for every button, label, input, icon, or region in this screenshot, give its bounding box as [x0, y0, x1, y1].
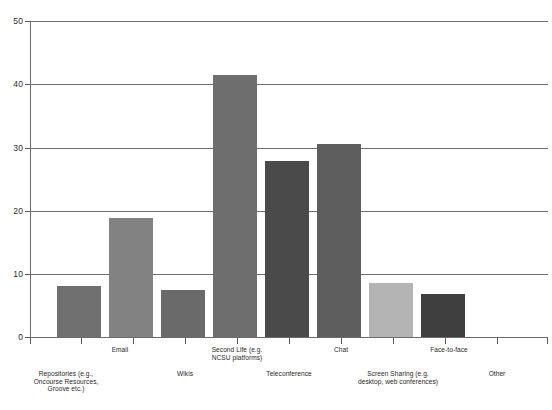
x-label-chat: Chat [315, 346, 367, 354]
bar-wikis [161, 290, 205, 337]
x-label-email: Email [94, 346, 146, 354]
bar-teleconference [265, 161, 309, 337]
x-label-wikis: Wikis [159, 370, 211, 378]
x-label-repositories: Repositories (e.g., Oncourse Resources, … [16, 370, 116, 393]
bar-repositories [57, 286, 101, 337]
bar-second-life [213, 75, 257, 337]
bar-email [109, 218, 153, 337]
x-label-face-to-face: Face-to-face [419, 346, 479, 354]
x-label-second-life: Second Life (e.g. NCSU platforms) [193, 346, 281, 361]
bar-screen-sharing [369, 283, 413, 337]
bar-chart: 50 40 30 20 10 0 Repositories (e.g., Onc… [0, 0, 552, 410]
bar-chat [317, 144, 361, 337]
x-label-screen-sharing: Screen Sharing (e.g. desktop, web confer… [345, 370, 451, 385]
x-label-other: Other [471, 370, 523, 378]
x-label-teleconference: Teleconference [248, 370, 330, 378]
bar-face-to-face [421, 294, 465, 337]
